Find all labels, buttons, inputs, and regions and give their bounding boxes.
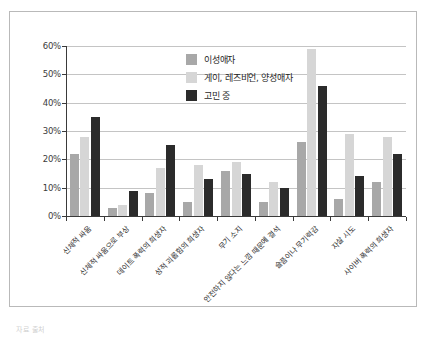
y-tick-label: 20%	[43, 154, 61, 164]
bar	[259, 202, 268, 216]
x-tick-mark	[142, 217, 143, 221]
bar	[145, 193, 154, 216]
y-tick-mark	[62, 188, 66, 189]
x-tick-mark	[179, 217, 180, 221]
y-tick-label: 30%	[43, 126, 61, 136]
bar	[194, 165, 203, 216]
y-tick-label: 10%	[43, 183, 61, 193]
legend-item: 게이, 레즈비언, 양성애자	[186, 71, 293, 83]
legend-label: 게이, 레즈비언, 양성애자	[204, 71, 293, 84]
y-tick-label: 40%	[43, 98, 61, 108]
legend-swatch	[186, 54, 197, 65]
bar	[129, 191, 138, 217]
bar	[221, 171, 230, 216]
y-tick-label: 60%	[43, 41, 61, 51]
legend-item: 고민 중	[186, 89, 293, 101]
y-tick-mark	[62, 131, 66, 132]
x-tick-mark	[406, 217, 407, 221]
bar	[204, 179, 213, 216]
bar-group	[297, 46, 327, 216]
y-tick-label: 50%	[43, 69, 61, 79]
bar	[280, 188, 289, 216]
bar	[393, 154, 402, 216]
legend-label: 이성애자	[204, 53, 235, 66]
bar	[108, 208, 117, 217]
y-tick-mark	[62, 103, 66, 104]
legend-swatch	[186, 90, 197, 101]
x-tick-mark	[66, 217, 67, 221]
x-tick-mark	[330, 217, 331, 221]
x-tick-mark	[104, 217, 105, 221]
bar-group	[108, 46, 138, 216]
y-tick-mark	[62, 159, 66, 160]
bar	[334, 199, 343, 216]
bar	[383, 137, 392, 216]
bar-group	[70, 46, 100, 216]
y-tick-label: 0%	[48, 211, 61, 221]
legend-item: 이성애자	[186, 53, 293, 65]
x-axis-line	[66, 216, 406, 217]
bar-group	[334, 46, 364, 216]
bar	[232, 162, 241, 216]
bar	[91, 117, 100, 216]
chart-frame: 0%10%20%30%40%50%60% 신체적 싸움신체적 싸움으로 부상데이…	[9, 11, 417, 307]
figure-caption: 자료 출처	[16, 324, 45, 334]
bar	[269, 182, 278, 216]
bar	[70, 154, 79, 216]
x-tick-mark	[217, 217, 218, 221]
bar	[345, 134, 354, 216]
x-tick-mark	[368, 217, 369, 221]
y-axis-line	[66, 46, 67, 217]
bar-group	[372, 46, 402, 216]
bar	[80, 137, 89, 216]
legend: 이성애자게이, 레즈비언, 양성애자고민 중	[186, 53, 293, 101]
legend-swatch	[186, 72, 197, 83]
bar	[118, 205, 127, 216]
x-tick-mark	[255, 217, 256, 221]
bar	[372, 182, 381, 216]
y-tick-mark	[62, 46, 66, 47]
x-tick-mark	[293, 217, 294, 221]
bar	[242, 174, 251, 217]
bar	[297, 142, 306, 216]
legend-label: 고민 중	[204, 89, 230, 102]
bar	[166, 145, 175, 216]
bar-group	[145, 46, 175, 216]
bar	[156, 168, 165, 216]
y-tick-mark	[62, 74, 66, 75]
bar	[307, 49, 316, 216]
bar	[318, 86, 327, 216]
bar	[355, 176, 364, 216]
bar	[183, 202, 192, 216]
figure: 0%10%20%30%40%50%60% 신체적 싸움신체적 싸움으로 부상데이…	[0, 0, 428, 342]
